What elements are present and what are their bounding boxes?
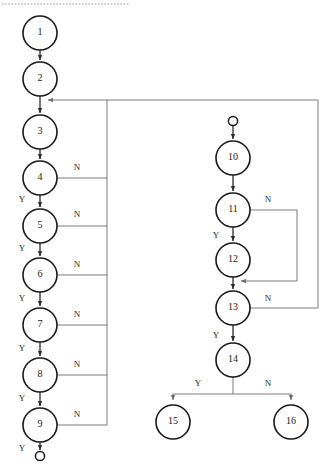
node-8[interactable]: 8	[23, 358, 57, 392]
node-11-label: 11	[228, 203, 238, 214]
branch-label-7-yes: Y	[19, 343, 26, 353]
branch-label-6-no: N	[74, 259, 81, 269]
branch-label-11-yes: Y	[213, 230, 220, 240]
branch-label-7-no: N	[74, 309, 81, 319]
node-13[interactable]: 13	[216, 291, 250, 325]
node-10[interactable]: 10	[216, 141, 250, 175]
node-9[interactable]: 9	[23, 408, 57, 442]
node-7[interactable]: 7	[23, 308, 57, 342]
branch-label-5-yes: Y	[19, 243, 26, 253]
node-16-label: 16	[286, 415, 296, 426]
terminal-start-right	[228, 116, 237, 125]
node-12-label: 12	[228, 253, 238, 264]
node-10-label: 10	[228, 151, 238, 162]
node-6[interactable]: 6	[23, 258, 57, 292]
node-15[interactable]: 15	[156, 405, 190, 439]
node-2-label: 2	[38, 72, 43, 83]
node-16[interactable]: 16	[274, 405, 308, 439]
terminal-nodes	[35, 116, 237, 460]
node-5-label: 5	[38, 219, 43, 230]
branch-label-8-yes: Y	[19, 393, 26, 403]
branch-label-13-yes: Y	[213, 330, 220, 340]
branch-label-8-no: N	[74, 359, 81, 369]
terminal-end-left	[35, 451, 44, 460]
node-6-label: 6	[38, 268, 43, 279]
branch-label-14-yes: Y	[195, 378, 202, 388]
branch-label-14-no: N	[265, 378, 272, 388]
node-11[interactable]: 11	[216, 193, 250, 227]
node-14-label: 14	[228, 353, 238, 364]
node-4-label: 4	[38, 171, 43, 182]
split-14-to-15-16	[173, 377, 291, 400]
node-13-label: 13	[228, 301, 238, 312]
node-4[interactable]: 4	[23, 161, 57, 195]
branch-label-13-no: N	[265, 293, 272, 303]
branch-label-4-yes: Y	[19, 194, 26, 204]
node-1-label: 1	[38, 26, 43, 37]
node-15-label: 15	[168, 415, 178, 426]
branch-label-5-no: N	[74, 209, 81, 219]
branch-label-9-no: N	[74, 409, 81, 419]
node-9-label: 9	[38, 418, 43, 429]
branch-label-11-no: N	[265, 194, 272, 204]
node-3[interactable]: 3	[23, 115, 57, 149]
flowchart-canvas: 1 2 3 4 5 6 7	[0, 0, 326, 476]
branch-label-9-yes: Y	[19, 443, 26, 453]
node-14[interactable]: 14	[216, 343, 250, 377]
node-3-label: 3	[38, 125, 43, 136]
node-5[interactable]: 5	[23, 209, 57, 243]
node-2[interactable]: 2	[23, 62, 57, 96]
node-8-label: 8	[38, 368, 43, 379]
flowchart-diagram: 1 2 3 4 5 6 7	[0, 0, 326, 476]
node-1[interactable]: 1	[23, 16, 57, 50]
outer-loop-13-to-3	[107, 100, 318, 308]
branch-label-6-yes: Y	[19, 293, 26, 303]
node-7-label: 7	[38, 318, 43, 329]
inner-loop-11-to-13	[241, 210, 297, 281]
branch-label-4-no: N	[74, 162, 81, 172]
node-12[interactable]: 12	[216, 243, 250, 277]
